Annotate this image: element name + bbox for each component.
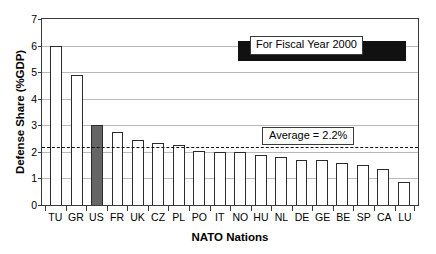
x-axis-label-de: DE: [292, 211, 313, 223]
bar-sp[interactable]: [357, 165, 369, 205]
x-axis-label-cz: CZ: [148, 211, 169, 223]
bar-be[interactable]: [336, 163, 348, 206]
bar-hu[interactable]: [255, 155, 267, 205]
x-axis-labels: TUGRUSFRUKCZPLPOITNOHUNLDEGEBESPCALU: [41, 211, 419, 223]
bar-nl[interactable]: [275, 157, 287, 205]
bar-cz[interactable]: [152, 143, 164, 205]
x-axis-label-ca: CA: [374, 211, 395, 223]
x-axis-label-lu: LU: [395, 211, 416, 223]
y-axis-tick-label: 5: [8, 66, 42, 78]
x-axis-title: NATO Nations: [41, 231, 419, 243]
bar-cell: [46, 19, 66, 205]
y-axis-tick-label: 3: [8, 119, 42, 131]
bar-cell: [66, 19, 86, 205]
x-axis-label-tu: TU: [45, 211, 66, 223]
bar-pl[interactable]: [173, 145, 185, 205]
x-axis-label-pl: PL: [168, 211, 189, 223]
bar-ge[interactable]: [316, 160, 328, 205]
bar-po[interactable]: [193, 151, 205, 205]
bar-cell: [87, 19, 107, 205]
bar-cell: [128, 19, 148, 205]
bar-de[interactable]: [296, 160, 308, 205]
bar-us[interactable]: [91, 125, 103, 205]
x-axis-label-hu: HU: [251, 211, 272, 223]
y-axis-tick-label: 2: [8, 146, 42, 158]
x-axis-label-no: NO: [230, 211, 251, 223]
x-axis-label-uk: UK: [127, 211, 148, 223]
average-reference-line: [42, 147, 418, 148]
bar-cell: [169, 19, 189, 205]
plot-area: 01234567 Average = 2.2% For Fiscal Year …: [41, 18, 419, 206]
bar-uk[interactable]: [132, 140, 144, 205]
bar-lu[interactable]: [398, 182, 410, 205]
x-axis-label-po: PO: [189, 211, 210, 223]
x-axis-label-us: US: [86, 211, 107, 223]
x-axis-label-ge: GE: [312, 211, 333, 223]
bar-fr[interactable]: [112, 132, 124, 205]
x-axis-label-sp: SP: [353, 211, 374, 223]
bar-no[interactable]: [234, 152, 246, 205]
bar-tu[interactable]: [50, 46, 62, 205]
bar-cell: [107, 19, 127, 205]
x-axis-label-nl: NL: [271, 211, 292, 223]
x-axis-label-be: BE: [333, 211, 354, 223]
y-axis-tick-label: 0: [8, 199, 42, 211]
y-axis-tick-label: 7: [8, 13, 42, 25]
bar-cell: [189, 19, 209, 205]
bar-cell: [148, 19, 168, 205]
x-axis-label-fr: FR: [107, 211, 128, 223]
legend-label: For Fiscal Year 2000: [250, 36, 363, 55]
y-axis-tick-label: 6: [8, 40, 42, 52]
y-axis-tick-label: 1: [8, 172, 42, 184]
bar-ca[interactable]: [377, 169, 389, 205]
average-annotation-label: Average = 2.2%: [262, 127, 354, 146]
bar-it[interactable]: [214, 152, 226, 205]
bar-cell: [210, 19, 230, 205]
x-axis-label-it: IT: [210, 211, 231, 223]
y-axis-tick-label: 4: [8, 93, 42, 105]
x-axis-label-gr: GR: [66, 211, 87, 223]
chart-figure: Defense Share (%GDP) 01234567 Average = …: [0, 0, 436, 254]
bar-gr[interactable]: [71, 75, 83, 205]
